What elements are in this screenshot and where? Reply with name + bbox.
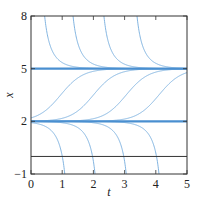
solution-curve [31,73,187,122]
solution-curve [31,69,187,118]
y-tick-labels: −1258 [14,9,27,181]
x-axis-label: t [107,185,111,199]
y-axis-label: x [2,92,16,99]
solution-curves [31,0,187,201]
x-tick-label: 1 [59,177,65,191]
x-tick-label: 2 [90,177,96,191]
x-tick-label: 4 [153,177,159,191]
solution-curve [31,121,134,201]
solution-curve [130,0,187,68]
phase-line-chart: 012345 −1258 t x [0,0,198,201]
solution-curve [31,123,72,201]
y-tick-label: −1 [14,167,27,181]
solution-curve [31,69,187,121]
y-tick-label: 8 [21,9,27,23]
plot-frame [31,16,187,174]
solution-curve [31,69,187,121]
solution-curve [31,121,166,201]
axis-ticks [31,16,187,174]
x-tick-label: 5 [184,177,190,191]
x-tick-label: 0 [28,177,34,191]
solution-curve [37,0,187,69]
y-tick-label: 2 [21,114,27,128]
x-tick-label: 3 [122,177,128,191]
y-tick-label: 5 [21,62,27,76]
solution-curve [96,0,187,69]
solution-curve [66,0,187,69]
